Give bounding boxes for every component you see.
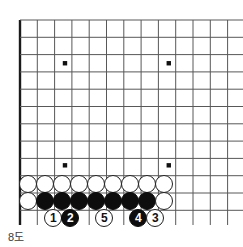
star-point [63,163,67,167]
board-grid [0,0,243,225]
move-number: 4 [135,212,141,224]
star-point [63,61,67,65]
star-point [167,61,171,65]
move-number: 1 [50,212,56,224]
move-number: 5 [101,212,107,224]
go-diagram-figure: 12543 8도 [0,0,243,247]
star-point [167,163,171,167]
figure-caption: 8도 [8,228,24,244]
move-number: 3 [152,212,158,224]
move-number: 2 [67,212,73,224]
go-board: 12543 [0,0,243,225]
